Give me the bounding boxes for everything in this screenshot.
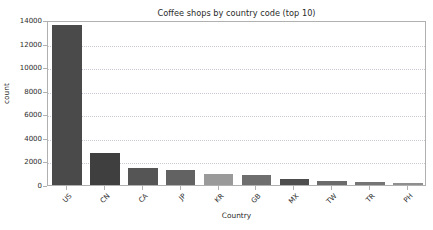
x-tick-mark — [104, 186, 105, 190]
bar — [166, 170, 196, 185]
y-tick-label: 10000 — [2, 64, 42, 72]
x-tick-mark — [218, 186, 219, 190]
bar — [317, 181, 347, 185]
chart-figure: Coffee shops by country code (top 10) co… — [0, 0, 433, 230]
x-tick-mark — [66, 186, 67, 190]
y-tick-label: 4000 — [2, 135, 42, 143]
bar — [90, 153, 120, 185]
y-tick-label: 6000 — [2, 111, 42, 119]
bar — [280, 179, 310, 185]
bar — [393, 183, 423, 185]
y-tick-label: 14000 — [2, 17, 42, 25]
plot-area — [47, 21, 426, 186]
bars-layer — [48, 22, 425, 185]
bar — [242, 175, 272, 185]
y-tick-mark — [43, 186, 47, 187]
bar — [355, 182, 385, 185]
x-tick-mark — [255, 186, 256, 190]
x-tick-mark — [331, 186, 332, 190]
x-tick-mark — [180, 186, 181, 190]
bar — [204, 174, 234, 185]
y-tick-label: 12000 — [2, 41, 42, 49]
y-tick-label: 0 — [2, 182, 42, 190]
bar — [52, 25, 82, 185]
x-tick-mark — [407, 186, 408, 190]
bar — [128, 168, 158, 185]
y-tick-label: 8000 — [2, 88, 42, 96]
x-tick-mark — [142, 186, 143, 190]
y-tick-label: 2000 — [2, 158, 42, 166]
x-axis-label: Country — [47, 211, 426, 220]
x-tick-mark — [369, 186, 370, 190]
x-tick-mark — [293, 186, 294, 190]
chart-title: Coffee shops by country code (top 10) — [47, 8, 426, 18]
